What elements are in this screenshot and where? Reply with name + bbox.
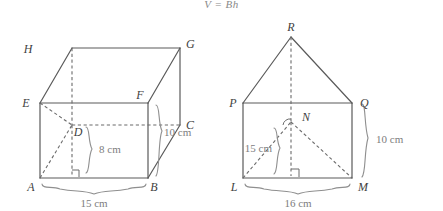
vertex-label-G: G [186,37,195,51]
brace-16cm-right [245,184,350,194]
brace-10cm-right [362,104,368,177]
dimension-label-15cm-right: 15 cm [245,142,273,154]
edge-PR [243,37,291,103]
left-prism-group: H G E F D C A B 8 cm 10 cm 15 cm [21,37,195,209]
vertex-label-H: H [23,42,34,56]
right-angle-mark-right [291,169,299,177]
edge-GF [148,48,180,103]
edge-HE [40,48,72,103]
right-angle-mark-left [72,170,79,177]
vertex-label-R: R [286,20,295,34]
edge-RQ [291,37,352,103]
vertex-label-D: D [73,125,83,139]
vertex-label-B: B [150,180,158,194]
geometry-figure: V = Bh [0,0,443,211]
figure-canvas: H G E F D C A B 8 cm 10 cm 15 cm [0,0,443,211]
dimension-label-16cm-right: 16 cm [284,197,312,209]
edge-ED-hidden [40,103,72,125]
dimension-label-10cm-left: 10 cm [164,126,192,138]
volume-formula: V = Bh [0,0,443,10]
vertex-label-E: E [21,96,30,110]
diagonal-AD [40,125,72,178]
brace-15cm-left [42,184,146,194]
vertex-label-M: M [357,180,369,194]
vertex-label-A: A [26,180,35,194]
vertex-label-N: N [301,110,311,124]
dimension-label-15cm-left: 15 cm [80,197,108,209]
right-prism-group: R P Q N L M 15 cm 10 cm 16 cm [228,20,403,209]
brace-15cm-right [274,128,280,174]
vertex-label-F: F [135,88,144,102]
dimension-label-8cm: 8 cm [99,143,121,155]
edge-NM-dashed [291,122,352,178]
dimension-label-10cm-right: 10 cm [376,133,404,145]
vertex-label-Q: Q [360,96,369,110]
brace-10cm-left [156,105,162,176]
vertex-label-P: P [228,96,237,110]
brace-8cm [86,127,92,173]
vertex-label-L: L [230,180,238,194]
